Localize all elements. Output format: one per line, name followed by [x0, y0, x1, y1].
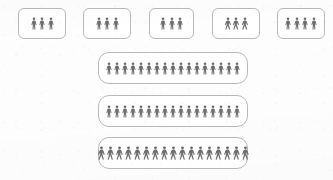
person-walking-icon: [224, 17, 232, 30]
person-standing-icon: [209, 105, 217, 118]
person-standing-icon: [310, 17, 318, 30]
person-standing-icon: [121, 62, 129, 75]
figure-row: [224, 17, 249, 30]
person-standing-icon: [176, 17, 184, 30]
person-standing-icon: [95, 17, 103, 30]
person-standing-icon: [301, 17, 309, 30]
person-standing-icon: [159, 17, 167, 30]
person-walking-icon: [178, 146, 187, 160]
person-standing-icon: [185, 105, 193, 118]
group-box-4[interactable]: [212, 8, 260, 39]
person-walking-icon: [241, 146, 250, 160]
person-standing-icon: [161, 62, 169, 75]
pictogram-canvas: [0, 0, 333, 180]
person-standing-icon: [284, 17, 292, 30]
person-standing-icon: [225, 105, 233, 118]
group-box-5[interactable]: [277, 8, 325, 39]
person-standing-icon: [209, 62, 217, 75]
person-standing-icon: [30, 17, 38, 30]
figure-row: [97, 146, 250, 160]
group-box-6[interactable]: [98, 52, 248, 84]
person-walking-icon: [232, 146, 241, 160]
person-standing-icon: [293, 17, 301, 30]
person-standing-icon: [137, 62, 145, 75]
person-standing-icon: [217, 62, 225, 75]
person-standing-icon: [145, 105, 153, 118]
figure-row: [159, 17, 184, 30]
figure-row: [284, 17, 318, 30]
figure-row: [105, 105, 241, 118]
person-walking-icon: [115, 146, 124, 160]
person-standing-icon: [193, 105, 201, 118]
person-standing-icon: [233, 105, 241, 118]
person-walking-icon: [241, 17, 249, 30]
person-standing-icon: [201, 62, 209, 75]
person-standing-icon: [137, 105, 145, 118]
person-standing-icon: [129, 105, 137, 118]
person-walking-icon: [205, 146, 214, 160]
group-box-7[interactable]: [98, 95, 248, 127]
person-standing-icon: [168, 17, 176, 30]
person-standing-icon: [193, 62, 201, 75]
group-box-3[interactable]: [149, 8, 194, 39]
person-standing-icon: [177, 62, 185, 75]
group-box-1[interactable]: [18, 8, 66, 39]
person-walking-icon: [196, 146, 205, 160]
person-standing-icon: [47, 17, 55, 30]
person-walking-icon: [214, 146, 223, 160]
figure-row: [105, 62, 241, 75]
person-standing-icon: [153, 62, 161, 75]
person-walking-icon: [106, 146, 115, 160]
person-walking-icon: [124, 146, 133, 160]
group-box-2[interactable]: [83, 8, 131, 39]
person-walking-icon: [97, 146, 106, 160]
person-standing-icon: [153, 105, 161, 118]
person-standing-icon: [225, 62, 233, 75]
person-standing-icon: [145, 62, 153, 75]
person-walking-icon: [232, 17, 240, 30]
figure-row: [30, 17, 55, 30]
person-standing-icon: [169, 62, 177, 75]
person-standing-icon: [201, 105, 209, 118]
person-standing-icon: [129, 62, 137, 75]
person-standing-icon: [185, 62, 193, 75]
person-standing-icon: [217, 105, 225, 118]
person-walking-icon: [223, 146, 232, 160]
person-standing-icon: [113, 105, 121, 118]
person-standing-icon: [121, 105, 129, 118]
person-standing-icon: [161, 105, 169, 118]
person-standing-icon: [113, 62, 121, 75]
person-walking-icon: [142, 146, 151, 160]
person-standing-icon: [169, 105, 177, 118]
person-standing-icon: [177, 105, 185, 118]
person-walking-icon: [133, 146, 142, 160]
person-standing-icon: [38, 17, 46, 30]
person-walking-icon: [169, 146, 178, 160]
person-standing-icon: [112, 17, 120, 30]
person-standing-icon: [105, 62, 113, 75]
person-walking-icon: [187, 146, 196, 160]
person-walking-icon: [160, 146, 169, 160]
person-standing-icon: [105, 105, 113, 118]
person-standing-icon: [233, 62, 241, 75]
person-walking-icon: [151, 146, 160, 160]
person-standing-icon: [103, 17, 111, 30]
group-box-8[interactable]: [98, 137, 248, 169]
figure-row: [95, 17, 120, 30]
